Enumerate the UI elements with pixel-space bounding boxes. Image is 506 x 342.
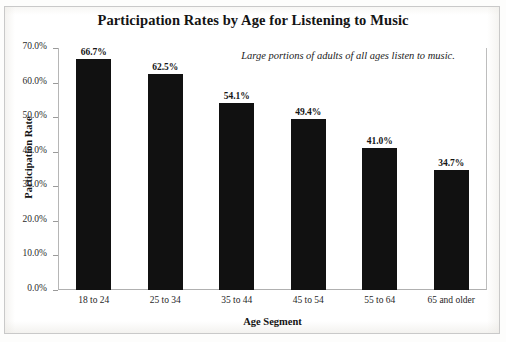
y-axis-tick-label: 10.0% <box>22 248 47 258</box>
x-axis-title: Age Segment <box>58 316 487 327</box>
bar-value-label: 62.5% <box>132 62 199 72</box>
bar[interactable] <box>148 74 183 290</box>
bar-value-label: 49.4% <box>275 107 342 117</box>
bar-column[interactable]: 34.7% <box>434 48 469 290</box>
x-axis-tick-label: 35 to 44 <box>201 295 273 305</box>
y-axis-tick-label: 20.0% <box>22 214 47 224</box>
y-axis-tick-label: 30.0% <box>22 179 47 189</box>
bar-column[interactable]: 54.1% <box>219 48 254 290</box>
y-axis-tick-mark <box>53 152 58 153</box>
bar-value-label: 54.1% <box>203 91 270 101</box>
y-axis-tick-label: 60.0% <box>22 76 47 86</box>
bar-value-label: 34.7% <box>418 158 485 168</box>
y-axis-tick-label: 0.0% <box>27 283 47 293</box>
bar[interactable] <box>362 148 397 290</box>
x-axis-tick-label: 18 to 24 <box>58 295 130 305</box>
y-axis-tick-mark <box>53 290 58 291</box>
y-axis-tick-mark <box>53 221 58 222</box>
y-axis-tick-label: 70.0% <box>22 41 47 51</box>
y-axis-tick-mark <box>53 83 58 84</box>
y-axis-tick-mark <box>53 255 58 256</box>
y-axis-tick-mark <box>53 117 58 118</box>
chart-title: Participation Rates by Age for Listening… <box>0 12 506 29</box>
bar-column[interactable]: 41.0% <box>362 48 397 290</box>
bar[interactable] <box>219 103 254 290</box>
x-axis-tick-label: 45 to 54 <box>273 295 345 305</box>
bar-column[interactable]: 62.5% <box>148 48 183 290</box>
bar[interactable] <box>434 170 469 290</box>
y-axis-title: Participation Rate <box>23 88 34 228</box>
bar-column[interactable]: 49.4% <box>291 48 326 290</box>
bar-value-label: 66.7% <box>60 47 127 57</box>
x-axis-tick-label: 65 and older <box>416 295 488 305</box>
y-axis-tick-mark <box>53 186 58 187</box>
bar[interactable] <box>76 59 111 290</box>
y-axis-tick-label: 50.0% <box>22 110 47 120</box>
bar[interactable] <box>291 119 326 290</box>
x-axis-tick-label: 55 to 64 <box>344 295 416 305</box>
chart-annotation: Large portions of adults of all ages lis… <box>214 50 482 61</box>
y-axis-tick-mark <box>53 48 58 49</box>
plot-area <box>58 48 487 290</box>
bar-value-label: 41.0% <box>346 136 413 146</box>
y-axis-tick-label: 40.0% <box>22 145 47 155</box>
bar-column[interactable]: 66.7% <box>76 48 111 290</box>
x-axis-tick-label: 25 to 34 <box>130 295 202 305</box>
